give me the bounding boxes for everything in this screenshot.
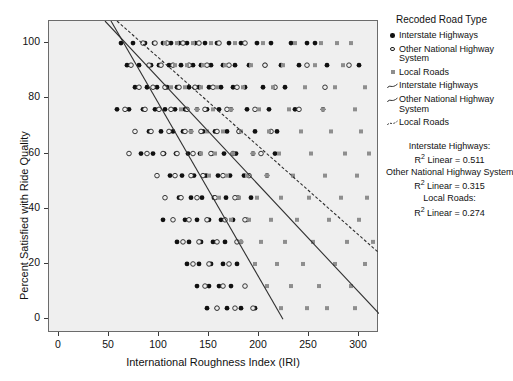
legend-item[interactable]: Other National HighwaySystem xyxy=(386,95,513,115)
legend-stat-line: R2 Linear = 0.511 xyxy=(386,152,513,166)
data-point xyxy=(200,195,205,200)
y-tick-mark xyxy=(44,208,48,209)
data-point xyxy=(191,41,195,45)
x-tick-label: 150 xyxy=(188,338,228,350)
data-point xyxy=(287,107,291,111)
x-tick-mark xyxy=(58,332,59,336)
data-point xyxy=(189,195,194,200)
data-point xyxy=(305,41,310,46)
data-point xyxy=(239,306,244,311)
x-axis-title: International Roughness Index (IRI) xyxy=(48,356,378,368)
data-point xyxy=(325,63,330,68)
data-point xyxy=(205,217,210,222)
data-point xyxy=(231,152,235,156)
legend-key xyxy=(386,118,399,127)
open-circle-icon xyxy=(390,47,395,52)
data-point xyxy=(199,152,203,156)
data-point xyxy=(343,152,347,156)
data-point xyxy=(229,107,233,111)
data-point xyxy=(233,63,238,68)
legend-key xyxy=(386,68,399,74)
data-point xyxy=(181,41,186,46)
data-point xyxy=(203,284,208,289)
data-point xyxy=(309,152,313,156)
data-point xyxy=(223,63,227,67)
data-point xyxy=(297,107,302,112)
x-tick-label: 300 xyxy=(338,338,378,350)
data-point xyxy=(295,218,299,222)
data-point xyxy=(283,85,288,90)
data-point xyxy=(189,129,193,133)
data-point xyxy=(199,129,204,134)
data-point xyxy=(305,63,310,68)
legend-item[interactable]: Interstate Highways xyxy=(386,31,513,41)
legend-stat-line: Local Roads: xyxy=(386,192,513,204)
data-point xyxy=(201,63,205,67)
data-point xyxy=(265,174,269,178)
data-point xyxy=(169,107,174,112)
legend-item[interactable]: Interstate Highways xyxy=(386,81,513,91)
data-point xyxy=(191,262,196,267)
data-point xyxy=(303,85,307,89)
legend-stat-line: R2 Linear = 0.315 xyxy=(386,178,513,192)
legend-key xyxy=(386,31,399,38)
data-point xyxy=(143,107,148,112)
data-point xyxy=(345,240,349,244)
data-point xyxy=(175,151,180,156)
legend-item-label: Interstate Highways xyxy=(399,81,478,91)
data-point xyxy=(363,262,367,266)
plot-canvas xyxy=(49,21,379,333)
data-point xyxy=(263,63,268,68)
data-point xyxy=(307,196,311,200)
scatter-points-layer xyxy=(115,41,375,311)
plot-area xyxy=(48,20,378,332)
data-point xyxy=(357,63,362,68)
data-point xyxy=(225,174,229,178)
solid-line-icon xyxy=(387,97,398,104)
data-point xyxy=(217,41,222,46)
legend-marker-items: Interstate HighwaysOther National Highwa… xyxy=(386,31,513,78)
legend-item[interactable]: Local Roads xyxy=(386,118,513,128)
data-point xyxy=(365,196,369,200)
series-open-circle xyxy=(123,41,352,311)
legend-stat-line: Other National Highway System: xyxy=(386,166,513,178)
data-point xyxy=(225,306,230,311)
data-point xyxy=(275,129,280,134)
data-point xyxy=(127,151,132,156)
data-point xyxy=(163,41,167,45)
data-point xyxy=(155,173,160,178)
legend-item-label: Other National HighwaySystem xyxy=(399,45,494,65)
legend-item[interactable]: Local Roads xyxy=(386,68,513,78)
filled-circle-icon xyxy=(390,33,395,38)
data-point xyxy=(215,129,220,134)
square-icon xyxy=(391,70,395,74)
data-point xyxy=(189,173,194,178)
y-tick-mark xyxy=(44,263,48,264)
data-point xyxy=(179,107,183,111)
data-point xyxy=(229,218,233,222)
data-point xyxy=(161,217,166,222)
data-point xyxy=(207,174,211,178)
data-point xyxy=(323,174,327,178)
data-point xyxy=(173,63,177,67)
legend-title: Recoded Road Type xyxy=(396,14,513,25)
legend-item-label: Interstate Highways xyxy=(399,31,478,41)
data-point xyxy=(261,85,266,90)
data-point xyxy=(195,107,199,111)
data-point xyxy=(253,129,258,134)
data-point xyxy=(251,152,255,156)
data-point xyxy=(277,152,281,156)
regression-lines-layer xyxy=(105,21,379,319)
legend-item[interactable]: Other National HighwaySystem xyxy=(386,45,513,65)
data-point xyxy=(233,306,238,311)
data-point xyxy=(243,284,248,289)
data-point xyxy=(183,85,187,89)
data-point xyxy=(289,41,294,46)
data-point xyxy=(349,41,353,45)
data-point xyxy=(267,129,271,133)
legend-item-label: Other National HighwaySystem xyxy=(399,95,494,115)
data-point xyxy=(137,85,142,90)
data-point xyxy=(221,129,225,133)
data-point xyxy=(203,107,208,112)
data-point xyxy=(243,217,248,222)
